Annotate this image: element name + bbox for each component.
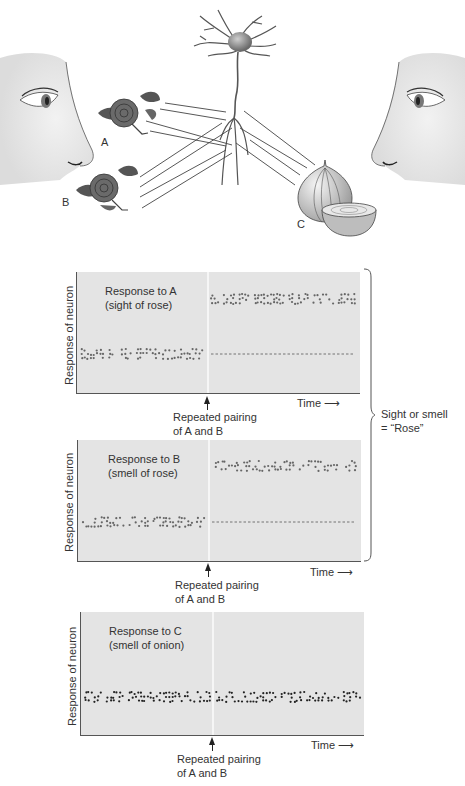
brace-icon: [362, 268, 376, 562]
label-c: C: [297, 218, 305, 230]
panel-3-spikes: [81, 612, 364, 735]
arrow-up-icon: [209, 737, 215, 745]
onion-c-icon: [298, 160, 376, 236]
panel-2-ylabel: Response of neuron: [63, 453, 75, 552]
panel-2-time-label: Time ⟶: [310, 566, 353, 579]
panel-3-pairing-note: Repeated pairing of A and B: [177, 752, 261, 780]
brace-note: Sight or smell = “Rose”: [381, 407, 448, 435]
arrow-right-icon: ⟶: [324, 397, 340, 409]
arrow-up-icon: [204, 396, 210, 404]
panel-3-ylabel: Response of neuron: [66, 627, 78, 726]
panel-response-b: Response to B (smell of rose): [77, 440, 361, 562]
panel-response-c: Response to C (smell of onion): [80, 612, 364, 736]
panel-3-time-label: Time ⟶: [311, 739, 354, 752]
rose-b-icon: [76, 166, 138, 211]
rose-a-icon: [98, 92, 160, 134]
panel-1-spikes: [77, 272, 360, 393]
panel-1-time-label: Time ⟶: [297, 397, 340, 410]
panel-1-pairing-note: Repeated pairing of A and B: [173, 410, 257, 438]
panel-2-pairing-note: Repeated pairing of A and B: [175, 578, 259, 606]
panel-2-spikes: [78, 440, 361, 561]
label-a: A: [101, 136, 108, 148]
panel-response-a: Response to A (sight of rose): [76, 272, 360, 394]
label-b: B: [62, 196, 69, 208]
panel-1-ylabel: Response of neuron: [63, 286, 75, 385]
arrow-right-icon: ⟶: [338, 739, 354, 751]
neuron-association-illustration: [0, 0, 465, 240]
right-face-icon: [372, 53, 465, 185]
neuron-soma-icon: [228, 32, 252, 52]
left-face-icon: [0, 53, 93, 185]
input-lines-onion: [236, 111, 315, 185]
arrow-up-icon: [205, 563, 211, 571]
arrow-right-icon: ⟶: [337, 566, 353, 578]
